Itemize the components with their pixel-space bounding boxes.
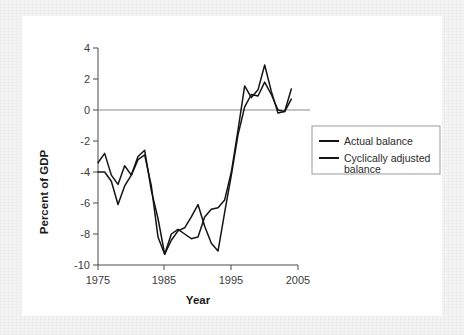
y-tick-label: 2 (84, 73, 90, 85)
legend-label-actual-balance: Actual balance (344, 135, 413, 147)
x-tick-labels: 1975 1985 1995 2005 (86, 274, 310, 286)
y-tick-label: -8 (80, 228, 90, 240)
x-tick-label: 1995 (219, 274, 243, 286)
x-tick-label: 1985 (152, 274, 176, 286)
x-tick-label: 1975 (86, 274, 110, 286)
y-tick-label: -6 (80, 197, 90, 209)
x-axis-title: Year (186, 294, 211, 306)
figure-canvas: Percent of GDP 4 2 0 -2 -4 -6 -8 -10 (22, 16, 442, 316)
figure-root: Percent of GDP 4 2 0 -2 -4 -6 -8 -10 (0, 0, 464, 335)
series-actual-balance (98, 82, 291, 254)
legend-label-cyclically-adjusted-line2: balance (344, 163, 381, 175)
y-tick-labels: 4 2 0 -2 -4 -6 -8 -10 (74, 42, 90, 271)
chart-legend: Actual balance Cyclically adjusted balan… (312, 126, 440, 175)
y-tick-label: 0 (84, 104, 90, 116)
y-tick-label: 4 (84, 42, 90, 54)
y-tick-label: -4 (80, 166, 90, 178)
y-tick-label: -2 (80, 135, 90, 147)
series-cyclically-adjusted-balance (98, 65, 291, 254)
x-tick-marks (98, 265, 298, 270)
y-tick-label: -10 (74, 259, 90, 271)
x-tick-label: 2005 (286, 274, 310, 286)
y-tick-marks (93, 48, 98, 265)
gdp-balance-line-chart: Percent of GDP 4 2 0 -2 -4 -6 -8 -10 (22, 16, 442, 316)
y-axis-title: Percent of GDP (38, 149, 50, 234)
